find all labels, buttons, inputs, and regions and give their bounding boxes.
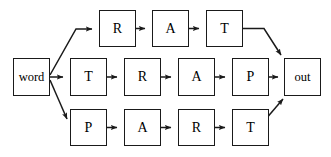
node-bottom-p-label: P bbox=[85, 121, 93, 135]
node-bottom-a: A bbox=[124, 109, 161, 146]
node-top-a-label: A bbox=[165, 22, 175, 36]
node-middle-p-label: P bbox=[247, 70, 255, 84]
node-middle-t: T bbox=[70, 58, 107, 96]
node-word: word bbox=[13, 58, 50, 96]
edge-top-t-to-out bbox=[243, 29, 281, 56]
node-middle-r-label: R bbox=[138, 70, 147, 84]
node-bottom-p: P bbox=[70, 109, 107, 146]
node-top-r-label: R bbox=[113, 22, 122, 36]
node-bottom-r: R bbox=[178, 109, 215, 146]
node-bottom-a-label: A bbox=[137, 121, 147, 135]
node-bottom-t: T bbox=[232, 109, 269, 146]
node-top-a: A bbox=[152, 10, 189, 47]
node-top-t-label: T bbox=[220, 22, 229, 36]
edge-word-to-bottom-p bbox=[50, 80, 67, 119]
node-out-label: out bbox=[295, 71, 311, 84]
node-bottom-t-label: T bbox=[246, 121, 255, 135]
node-middle-p: P bbox=[232, 58, 269, 96]
word-lattice-diagram: word R A T T R A P P A R T out bbox=[0, 0, 331, 157]
node-word-label: word bbox=[19, 71, 45, 84]
node-bottom-r-label: R bbox=[192, 121, 201, 135]
node-top-r: R bbox=[99, 10, 136, 47]
node-middle-t-label: T bbox=[84, 70, 93, 84]
node-top-t: T bbox=[206, 10, 243, 47]
node-out: out bbox=[284, 58, 321, 96]
node-middle-a: A bbox=[178, 58, 215, 96]
node-middle-a-label: A bbox=[191, 70, 201, 84]
node-middle-r: R bbox=[124, 58, 161, 96]
